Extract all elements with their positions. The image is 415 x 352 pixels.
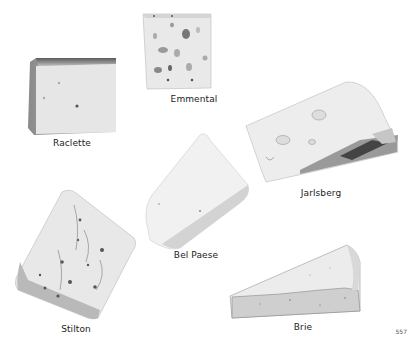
label-brie: Brie [294, 322, 312, 332]
brie-illustration [0, 0, 415, 352]
page-number: 557 [396, 328, 407, 335]
